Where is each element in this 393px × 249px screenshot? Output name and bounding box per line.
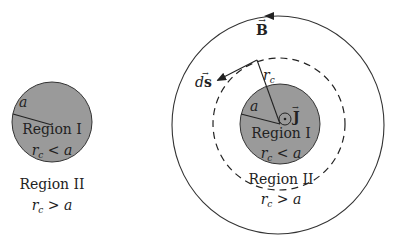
radius-label: a	[19, 94, 27, 110]
ampere-law-diagram: a Region I rc < a Region II rc > a B → r…	[0, 0, 393, 249]
radius-label: a	[250, 98, 258, 114]
region1-condition: rc < a	[261, 145, 302, 163]
region2-label: Region II	[248, 171, 313, 187]
region2-label: Region II	[19, 176, 84, 192]
region2-condition: rc > a	[32, 197, 73, 215]
path-element-arrow	[218, 60, 257, 80]
right-figure: B → rc ds → a J → Region I rc < a Region…	[172, 12, 384, 234]
current-density-vector-arrow: →	[292, 103, 299, 112]
region2-condition: rc > a	[261, 191, 302, 209]
region1-label: Region I	[251, 125, 311, 141]
left-figure: a Region I rc < a Region II rc > a	[12, 82, 92, 215]
region1-condition: rc < a	[32, 142, 73, 160]
region1-label: Region I	[22, 121, 82, 137]
amperian-radius-label: rc	[263, 67, 275, 85]
current-dot	[284, 118, 287, 121]
field-vector-arrow: →	[258, 15, 266, 25]
path-element-vector-arrow: →	[202, 69, 209, 78]
